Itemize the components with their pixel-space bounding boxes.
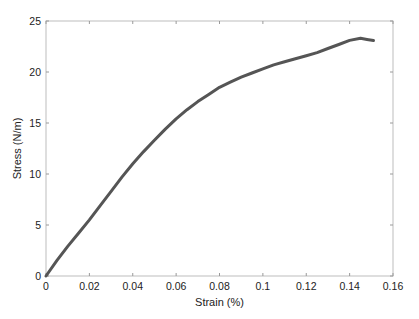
x-tick-label: 0.12 bbox=[296, 280, 317, 292]
stress-strain-curve bbox=[46, 38, 374, 276]
x-axis-label: Strain (%) bbox=[195, 296, 244, 308]
y-tick-label: 0 bbox=[35, 270, 41, 282]
x-tick-label: 0.08 bbox=[209, 280, 230, 292]
x-tick-label: 0.14 bbox=[339, 280, 360, 292]
y-tick-label: 25 bbox=[29, 15, 41, 27]
y-tick-label: 10 bbox=[29, 168, 41, 180]
x-tick-label: 0 bbox=[43, 280, 49, 292]
plot-frame bbox=[46, 21, 393, 276]
x-axis-ticks: 00.020.040.060.080.10.120.140.16 bbox=[43, 21, 403, 292]
y-tick-label: 20 bbox=[29, 66, 41, 78]
x-tick-label: 0.02 bbox=[79, 280, 100, 292]
x-tick-label: 0.1 bbox=[256, 280, 271, 292]
x-tick-label: 0.06 bbox=[166, 280, 187, 292]
axes-box bbox=[46, 21, 393, 276]
y-axis-label: Stress (N/m) bbox=[11, 118, 23, 180]
y-tick-label: 15 bbox=[29, 117, 41, 129]
x-tick-label: 0.16 bbox=[383, 280, 404, 292]
data-series bbox=[46, 38, 374, 276]
y-axis-ticks: 0510152025 bbox=[29, 15, 393, 282]
y-tick-label: 5 bbox=[35, 219, 41, 231]
x-tick-label: 0.04 bbox=[123, 280, 144, 292]
stress-strain-chart: 00.020.040.060.080.10.120.140.16 0510152… bbox=[0, 0, 419, 319]
